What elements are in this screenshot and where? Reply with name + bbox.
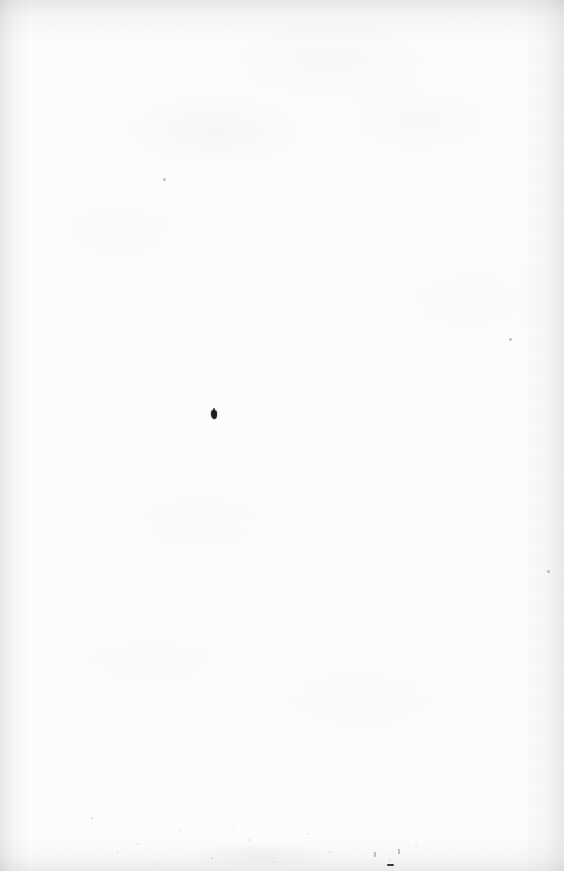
scanned-page xyxy=(0,0,564,871)
paper-background xyxy=(0,0,564,871)
